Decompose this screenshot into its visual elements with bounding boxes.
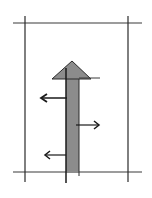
branch-arrow-left-lower	[45, 151, 66, 159]
arrow-shaft	[66, 69, 79, 173]
arrow-head	[52, 61, 91, 79]
main-up-arrow	[52, 61, 100, 183]
branch-arrow-left-upper	[41, 94, 67, 102]
diagram-canvas	[0, 0, 152, 198]
